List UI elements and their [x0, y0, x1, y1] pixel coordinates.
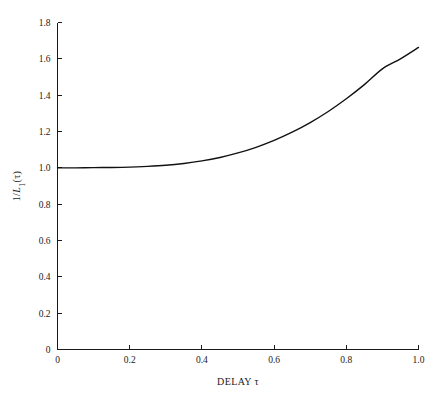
y-tick-label: 1.8 — [39, 18, 51, 28]
y-tick-label: 1.4 — [39, 91, 51, 101]
chart-figure: 00.20.40.60.81.01.21.41.61.800.20.40.60.… — [0, 0, 435, 402]
y-tick-label: 1.0 — [39, 163, 51, 173]
x-tick-label: 0.6 — [268, 355, 280, 365]
line-chart: 00.20.40.60.81.01.21.41.61.800.20.40.60.… — [0, 0, 435, 402]
tick-labels: 00.20.40.60.81.01.21.41.61.800.20.40.60.… — [39, 18, 425, 365]
x-tick-label: 0.4 — [196, 355, 208, 365]
y-tick-label: 0.4 — [39, 272, 51, 282]
y-tick-label: 1.6 — [39, 54, 51, 64]
y-tick-label: 0 — [46, 345, 51, 355]
y-tick-label: 0.2 — [39, 309, 51, 319]
x-tick-label: 0.2 — [124, 355, 136, 365]
data-series — [58, 47, 419, 167]
tick-marks — [58, 23, 419, 350]
x-tick-label: 0 — [55, 355, 60, 365]
y-tick-label: 0.8 — [39, 200, 51, 210]
y-tick-label: 0.6 — [39, 236, 51, 246]
y-tick-label: 1.2 — [39, 127, 51, 137]
y-axis-title: 1/L1(τ) — [11, 171, 27, 202]
x-axis-title: DELAY τ — [217, 376, 259, 387]
axes — [58, 23, 419, 350]
x-tick-label: 0.8 — [340, 355, 352, 365]
x-tick-label: 1.0 — [413, 355, 425, 365]
series-line — [58, 47, 419, 167]
